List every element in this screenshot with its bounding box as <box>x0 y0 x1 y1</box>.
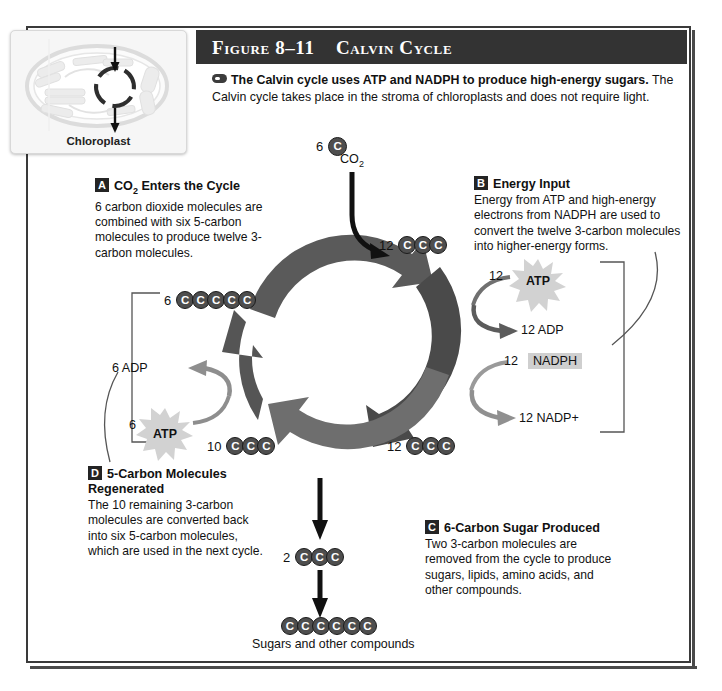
block-d-body: The 10 remaining 3-carbon molecules are … <box>88 498 268 560</box>
block-a-co2-enters: ACO2 Enters the Cycle 6 carbon dioxide m… <box>95 178 280 261</box>
figure-frame-shadow <box>30 666 697 669</box>
block-a-heading: ACO2 Enters the Cycle <box>95 178 280 199</box>
block-b-body: Energy from ATP and high-energy electron… <box>474 193 689 255</box>
co2-formula-pre: CO <box>340 152 359 166</box>
node-12-three-carbon-top: 12 C C C <box>379 236 445 254</box>
node-count: 10 <box>207 439 221 454</box>
nadp-plus-label: 12 NADP+ <box>519 411 579 425</box>
adp-right-label: 12 ADP <box>521 323 564 337</box>
carbon-chip: C <box>437 437 455 455</box>
block-c-body: Two 3-carbon molecules are removed from … <box>425 537 615 599</box>
node-count: 12 <box>379 238 393 253</box>
atp-right-label: ATP <box>519 262 557 300</box>
block-b-letter: B <box>474 176 488 190</box>
block-c-letter: C <box>425 520 439 534</box>
block-d-heading-text: 5-Carbon Molecules Regenerated <box>88 467 227 496</box>
figure-number: Figure 8–11 <box>212 37 315 58</box>
node-count: 2 <box>283 550 290 565</box>
node-12-three-carbon-bottom: 12 C C C <box>387 437 453 455</box>
caption-bold: The Calvin cycle uses ATP and NADPH to p… <box>231 73 649 87</box>
node-co2-count: 6 <box>316 139 323 154</box>
block-d-letter: D <box>88 466 102 480</box>
atp-right-count: 12 <box>489 269 503 283</box>
caption-bullet-icon <box>212 74 227 83</box>
block-a-heading-pre: CO <box>114 179 133 193</box>
block-d-regenerated: D5-Carbon Molecules Regenerated The 10 r… <box>88 466 268 560</box>
nadph-label: NADPH <box>528 353 582 369</box>
figure-header-bar: Figure 8–11 Calvin Cycle <box>196 30 687 64</box>
block-b-heading-text: Energy Input <box>493 177 570 191</box>
figure-title: Calvin Cycle <box>336 37 452 58</box>
node-6-five-carbon: 6 C C C C C <box>164 291 254 309</box>
atp-left-label: ATP <box>146 415 184 453</box>
figure-frame-shadow-right <box>692 30 695 667</box>
block-a-body: 6 carbon dioxide molecules are combined … <box>95 200 280 262</box>
sugars-output-label: Sugars and other compounds <box>252 637 415 651</box>
block-c-sugar-produced: C6-Carbon Sugar Produced Two 3-carbon mo… <box>425 520 615 599</box>
block-a-heading-post: Enters the Cycle <box>138 179 240 193</box>
node-2-three-carbon-output: 2 C C C <box>283 548 342 566</box>
block-a-letter: A <box>95 178 109 192</box>
carbon-chip: C <box>429 236 447 254</box>
figure-caption: The Calvin cycle uses ATP and NADPH to p… <box>212 72 674 105</box>
node-count: 6 <box>164 293 171 308</box>
block-c-heading-text: 6-Carbon Sugar Produced <box>444 521 600 535</box>
figure-header-text: Figure 8–11 Calvin Cycle <box>212 37 452 59</box>
chloroplast-inset: Chloroplast <box>10 30 187 154</box>
co2-formula-sub: 2 <box>359 159 364 169</box>
carbon-chip: C <box>238 291 256 309</box>
block-d-heading: D5-Carbon Molecules Regenerated <box>88 466 268 497</box>
carbon-chip: C <box>359 617 377 635</box>
node-count: 12 <box>387 439 401 454</box>
carbon-chip: C <box>257 437 275 455</box>
nadph-count: 12 <box>504 354 518 368</box>
block-b-energy-input: BEnergy Input Energy from ATP and high-e… <box>474 176 689 255</box>
adp-left-label: 6 ADP <box>112 361 148 375</box>
block-c-heading: C6-Carbon Sugar Produced <box>425 520 615 536</box>
chloroplast-label: Chloroplast <box>11 135 186 147</box>
node-six-carbon-sugar: C C C C C C <box>281 617 374 635</box>
node-10-three-carbon: 10 C C C <box>207 437 273 455</box>
block-b-heading: BEnergy Input <box>474 176 689 192</box>
atp-left-count: 6 <box>129 418 136 432</box>
node-co2-formula: CO2 <box>340 152 364 169</box>
carbon-chip: C <box>326 548 344 566</box>
